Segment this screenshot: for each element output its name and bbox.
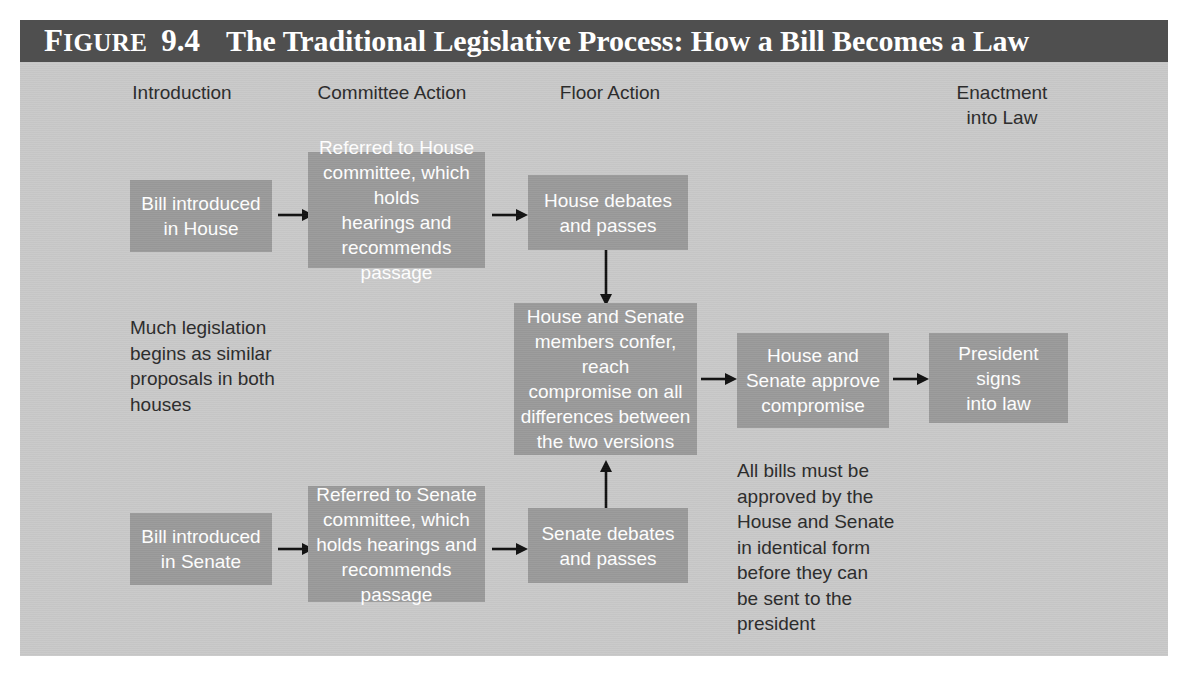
box-senate-debates-passes[interactable]: Senate debates and passes	[528, 508, 688, 583]
arrow-house-floor-to-conference	[599, 250, 613, 306]
box-bill-introduced-house[interactable]: Bill introduced in House	[130, 180, 272, 252]
figure-label: FIGURE	[20, 23, 147, 59]
column-header-committee-action: Committee Action	[282, 80, 502, 105]
diagram-panel: Introduction Committee Action Floor Acti…	[20, 62, 1168, 656]
figure-container: FIGURE 9.4 The Traditional Legislative P…	[0, 0, 1190, 675]
box-conference-committee[interactable]: House and Senate members confer, reach c…	[514, 303, 697, 455]
box-house-senate-approve[interactable]: House and Senate approve compromise	[737, 333, 889, 428]
figure-title-bar: FIGURE 9.4 The Traditional Legislative P…	[20, 20, 1168, 62]
box-bill-introduced-senate[interactable]: Bill introduced in Senate	[130, 513, 272, 585]
column-header-enactment-into-law: Enactment into Law	[902, 80, 1102, 130]
arrow-approve-to-president	[893, 372, 929, 386]
arrow-senate-committee-to-floor	[492, 542, 528, 556]
box-referred-house-committee[interactable]: Referred to House committee, which holds…	[308, 152, 485, 268]
note-much-legislation: Much legislation begins as similar propo…	[130, 315, 360, 417]
column-header-floor-action: Floor Action	[510, 80, 710, 105]
arrow-conference-to-approve	[701, 372, 737, 386]
arrow-house-committee-to-floor	[492, 208, 528, 222]
box-house-debates-passes[interactable]: House debates and passes	[528, 175, 688, 250]
note-all-bills: All bills must be approved by the House …	[737, 458, 967, 637]
box-president-signs[interactable]: President signs into law	[929, 333, 1068, 423]
figure-label-initial: F	[44, 23, 63, 58]
column-header-introduction: Introduction	[72, 80, 292, 105]
figure-title: The Traditional Legislative Process: How…	[226, 24, 1029, 58]
figure-label-rest: IGURE	[63, 29, 147, 56]
box-referred-senate-committee[interactable]: Referred to Senate committee, which hold…	[308, 486, 485, 602]
figure-number: 9.4	[161, 23, 200, 59]
